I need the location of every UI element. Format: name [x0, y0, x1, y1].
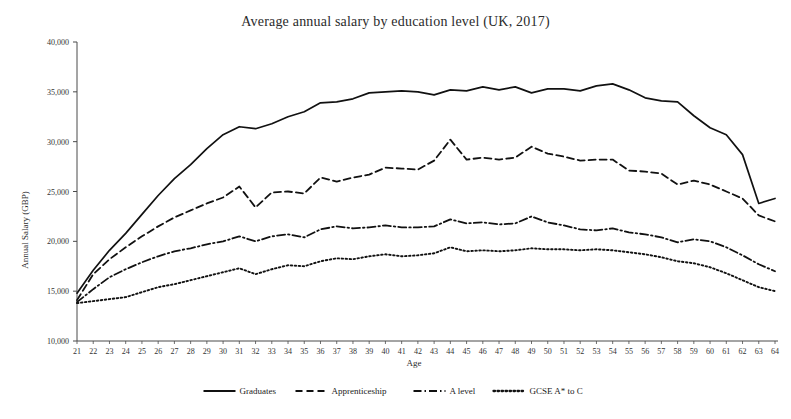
x-axis-tick-label: 22: [89, 347, 97, 356]
x-axis-tick-label: 62: [739, 347, 747, 356]
x-axis-tick-label: 41: [398, 347, 406, 356]
chart-legend: GraduatesApprenticeshipA levelGCSE A* to…: [204, 386, 583, 396]
y-axis-tick-label: 10,000: [47, 337, 69, 346]
x-axis-tick-label: 28: [187, 347, 195, 356]
x-axis-tick-label: 50: [544, 347, 552, 356]
x-axis-tick-label: 60: [706, 347, 714, 356]
x-axis-tick-label: 47: [495, 347, 503, 356]
x-axis-tick-label: 55: [625, 347, 633, 356]
x-axis-tick-label: 31: [235, 347, 243, 356]
y-axis-group: 10,00015,00020,00025,00030,00035,00040,0…: [20, 38, 77, 346]
legend-label-gcse-a-to-c: GCSE A* to C: [530, 386, 583, 396]
series-line-gcse-a-to-c: [77, 247, 775, 303]
data-series-group: [77, 84, 775, 303]
legend-label-apprenticeship: Apprenticeship: [332, 386, 387, 396]
x-axis-tick-label: 24: [122, 347, 130, 356]
x-axis-tick-label: 44: [446, 347, 454, 356]
x-axis-tick-label: 45: [463, 347, 471, 356]
chart-container: Average annual salary by education level…: [0, 0, 791, 419]
x-axis-tick-label: 27: [170, 347, 178, 356]
legend-label-a-level: A level: [450, 386, 476, 396]
y-axis-tick-label: 40,000: [47, 38, 69, 47]
x-axis-tick-label: 37: [333, 347, 341, 356]
series-line-graduates: [77, 84, 775, 293]
x-axis-tick-label: 64: [771, 347, 779, 356]
x-axis-tick-label: 39: [365, 347, 373, 356]
x-axis-tick-label: 49: [528, 347, 536, 356]
x-axis-tick-label: 61: [722, 347, 730, 356]
x-axis-tick-label: 35: [300, 347, 308, 356]
x-axis-tick-label: 52: [576, 347, 584, 356]
x-axis-tick-label: 21: [73, 347, 81, 356]
x-axis-tick-label: 63: [755, 347, 763, 356]
y-axis-label: Annual Salary (GBP): [20, 191, 30, 269]
x-axis-tick-label: 59: [690, 347, 698, 356]
x-axis-label: Age: [407, 358, 422, 368]
x-axis-tick-label: 57: [657, 347, 665, 356]
y-axis-tick-label: 15,000: [47, 287, 69, 296]
series-line-apprenticeship: [77, 140, 775, 300]
x-axis-tick-label: 34: [284, 347, 292, 356]
x-axis-tick-label: 42: [414, 347, 422, 356]
x-axis-tick-label: 23: [105, 347, 113, 356]
x-axis-tick-label: 26: [154, 347, 162, 356]
x-axis-tick-label: 29: [203, 347, 211, 356]
x-axis-tick-label: 53: [592, 347, 600, 356]
chart-plot-area: 10,00015,00020,00025,00030,00035,00040,0…: [0, 0, 791, 419]
x-axis-tick-label: 32: [252, 347, 260, 356]
x-axis-ticks: 2122232425262728293031323334353637383940…: [73, 341, 779, 356]
x-axis-tick-label: 51: [560, 347, 568, 356]
x-axis-tick-label: 43: [430, 347, 438, 356]
y-axis-tick-label: 20,000: [47, 237, 69, 246]
x-axis-tick-label: 40: [381, 347, 389, 356]
x-axis-tick-label: 58: [674, 347, 682, 356]
x-axis-tick-label: 33: [268, 347, 276, 356]
x-axis-group: 2122232425262728293031323334353637383940…: [73, 341, 779, 368]
x-axis-tick-label: 46: [479, 347, 487, 356]
x-axis-tick-label: 36: [316, 347, 324, 356]
x-axis-tick-label: 56: [641, 347, 649, 356]
legend-label-graduates: Graduates: [240, 386, 277, 396]
y-axis-ticks: 10,00015,00020,00025,00030,00035,00040,0…: [47, 38, 77, 346]
y-axis-tick-label: 25,000: [47, 188, 69, 197]
y-axis-tick-label: 35,000: [47, 88, 69, 97]
x-axis-tick-label: 48: [511, 347, 519, 356]
x-axis-tick-label: 30: [219, 347, 227, 356]
x-axis-tick-label: 38: [349, 347, 357, 356]
y-axis-tick-label: 30,000: [47, 138, 69, 147]
x-axis-tick-label: 25: [138, 347, 146, 356]
x-axis-tick-label: 54: [609, 347, 617, 356]
